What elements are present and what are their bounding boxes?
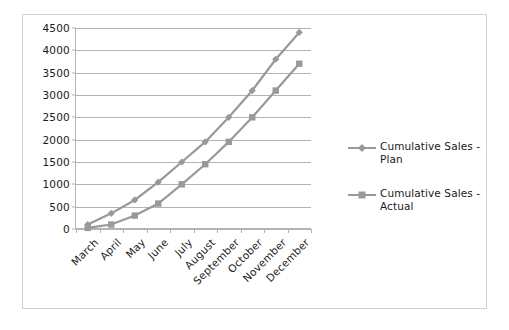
x-axis-tick-mark [170, 229, 171, 233]
legend-entry-plan: Cumulative Sales - Plan [348, 140, 498, 166]
y-axis-tick-label: 1500 [42, 156, 70, 168]
y-axis-tick-label: 500 [49, 201, 70, 213]
x-axis-tick-mark [123, 229, 124, 233]
y-axis-tick-label: 2500 [42, 111, 70, 123]
series-line [88, 32, 300, 224]
y-axis-tick-label: 3500 [42, 67, 70, 79]
x-axis-tick-label: May [123, 236, 147, 260]
x-axis-tick-mark [100, 229, 101, 233]
y-axis-tick-label: 3000 [42, 89, 70, 101]
y-axis-tick-label: 4500 [42, 22, 70, 34]
x-axis-tick-label: April [98, 236, 124, 262]
y-axis-tick-label: 1000 [42, 178, 70, 190]
legend-entry-actual: Cumulative Sales - Actual [348, 187, 498, 213]
x-axis-tick-mark [241, 229, 242, 233]
series-data-point [249, 114, 255, 120]
x-axis-tick-mark [147, 229, 148, 233]
chart-container: 050010001500200025003000350040004500 Mar… [22, 14, 487, 309]
series-data-point [108, 221, 114, 227]
legend-label-actual: Cumulative Sales - Actual [380, 187, 498, 213]
x-axis-tick-label: June [146, 236, 171, 261]
series-data-point [85, 225, 91, 231]
series-data-point [296, 61, 302, 67]
y-axis-tick-label: 0 [63, 223, 70, 235]
legend-marker-square-icon [348, 188, 376, 201]
series-data-point [226, 139, 232, 145]
legend-marker-diamond-icon [348, 141, 376, 154]
x-axis-tick-label: March [68, 236, 100, 268]
x-axis-tick-mark [264, 229, 265, 233]
x-axis-tick-mark [288, 229, 289, 233]
series-data-point [132, 212, 138, 218]
series-data-point [273, 87, 279, 93]
y-axis-tick-label: 4000 [42, 44, 70, 56]
x-axis-tick-mark [311, 229, 312, 233]
x-axis-tick-mark [76, 229, 77, 233]
series-line [88, 64, 300, 228]
x-axis-tick-mark [194, 229, 195, 233]
plot-area: 050010001500200025003000350040004500 Mar… [76, 28, 311, 229]
chart-legend: Cumulative Sales - Plan Cumulative Sales… [348, 140, 498, 234]
series-data-point [202, 161, 208, 167]
series-data-point [155, 200, 161, 206]
legend-label-plan: Cumulative Sales - Plan [380, 140, 498, 166]
x-axis-tick-mark [217, 229, 218, 233]
series-group [76, 28, 311, 229]
y-axis-tick-label: 2000 [42, 134, 70, 146]
series-data-point [179, 181, 185, 187]
